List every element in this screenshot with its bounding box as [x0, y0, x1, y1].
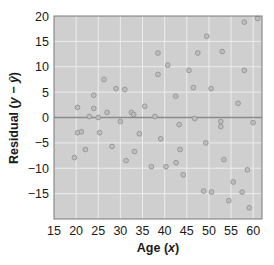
- data-point: [255, 16, 260, 21]
- y-axis-ticks: 20151050−5−10−15: [28, 10, 49, 202]
- data-point: [222, 157, 227, 162]
- data-point: [177, 122, 182, 127]
- data-point: [122, 87, 127, 92]
- data-point: [83, 147, 88, 152]
- data-point: [156, 51, 161, 56]
- y-tick-label: −5: [35, 136, 49, 150]
- data-point: [187, 68, 192, 73]
- data-point: [245, 167, 250, 172]
- y-axis-label: Residual (y − ŷ): [7, 72, 21, 164]
- data-point: [231, 180, 236, 185]
- data-point: [131, 112, 136, 117]
- y-tick-label: −10: [28, 162, 49, 176]
- data-point: [242, 20, 247, 25]
- y-tick-label: 5: [42, 86, 49, 100]
- y-tick-label: 10: [35, 60, 49, 74]
- data-point: [132, 149, 137, 154]
- data-point: [96, 115, 101, 120]
- x-tick-label: 20: [69, 224, 83, 238]
- x-tick-label: 25: [91, 224, 105, 238]
- data-point: [75, 105, 80, 110]
- data-point: [124, 158, 129, 163]
- y-tick-label: 15: [35, 35, 49, 49]
- data-point: [79, 129, 84, 134]
- data-point: [153, 114, 158, 119]
- data-point: [158, 136, 163, 141]
- residual-plot: 20151050−5−10−15 15202530354045505560 Re…: [0, 0, 274, 265]
- x-tick-label: 40: [158, 224, 172, 238]
- data-point: [174, 160, 179, 165]
- y-tick-label: 20: [35, 10, 49, 24]
- data-point: [251, 120, 256, 125]
- x-tick-label: 30: [113, 224, 127, 238]
- x-tick-label: 50: [202, 224, 216, 238]
- data-point: [191, 85, 196, 90]
- x-tick-label: 35: [136, 224, 150, 238]
- data-point: [118, 119, 123, 124]
- data-point: [201, 189, 206, 194]
- data-point: [137, 131, 142, 136]
- data-point: [209, 190, 214, 195]
- data-point: [165, 63, 170, 68]
- data-point: [72, 155, 77, 160]
- data-point: [110, 144, 115, 149]
- data-point: [220, 49, 225, 54]
- data-point: [102, 77, 107, 82]
- x-tick-label: 55: [224, 224, 238, 238]
- data-point: [192, 116, 197, 121]
- data-point: [204, 34, 209, 39]
- y-tick-label: −15: [28, 187, 49, 201]
- x-tick-label: 60: [246, 224, 260, 238]
- data-point: [173, 94, 178, 99]
- data-point: [114, 86, 119, 91]
- data-point: [218, 119, 223, 124]
- x-tick-label: 15: [47, 224, 61, 238]
- data-point: [240, 190, 245, 195]
- y-tick-label: 0: [42, 111, 49, 125]
- x-tick-label: 45: [180, 224, 194, 238]
- data-point: [142, 104, 147, 109]
- data-point: [247, 205, 252, 210]
- data-point: [178, 147, 183, 152]
- x-axis-ticks: 15202530354045505560: [47, 224, 260, 238]
- data-point: [87, 114, 92, 119]
- data-point: [242, 68, 247, 73]
- data-point: [164, 164, 169, 169]
- data-point: [97, 130, 102, 135]
- data-point: [218, 124, 223, 129]
- data-point: [181, 172, 186, 177]
- data-point: [209, 86, 214, 91]
- data-point: [91, 93, 96, 98]
- x-axis-label: Age (x): [137, 241, 179, 255]
- data-point: [156, 72, 161, 77]
- data-point: [236, 101, 241, 106]
- data-point: [105, 110, 110, 115]
- data-point: [226, 198, 231, 203]
- data-point: [195, 51, 200, 56]
- data-point: [91, 106, 96, 111]
- data-point: [203, 141, 208, 146]
- data-point: [149, 164, 154, 169]
